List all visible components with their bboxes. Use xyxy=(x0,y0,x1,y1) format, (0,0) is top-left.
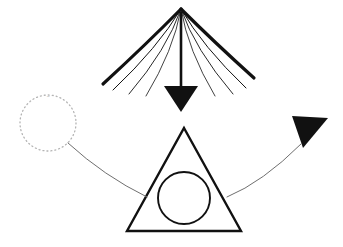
smudge-text: ~ xyxy=(47,93,50,99)
canvas-background xyxy=(0,0,343,247)
figure-svg: ~ xyxy=(0,0,343,247)
drawing-canvas: ~ xyxy=(0,0,343,247)
